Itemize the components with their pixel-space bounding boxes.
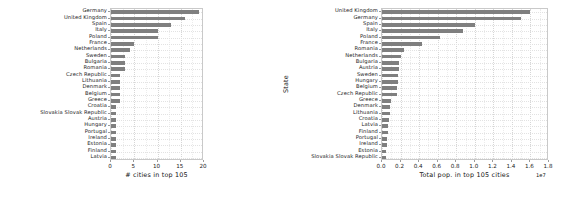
y-axis-tick-mark: [108, 125, 110, 126]
y-axis-tick-mark: [108, 94, 110, 95]
x-axis-tick-mark: [180, 160, 181, 162]
bar: [382, 124, 388, 128]
y-axis-tick-label: Greece: [359, 97, 378, 102]
bar: [111, 23, 171, 27]
bar: [382, 48, 404, 52]
bar: [382, 99, 391, 103]
x-axis-tick-label: 10: [153, 163, 160, 169]
gridline-vertical: [475, 9, 476, 159]
x-axis-tick-label: 5: [131, 163, 135, 169]
gridline-vertical: [181, 9, 182, 159]
x-axis-tick-mark: [437, 160, 438, 162]
x-axis-tick-label: 1.6: [525, 163, 534, 169]
bar: [382, 17, 521, 21]
x-axis-tick-label: 0.0: [377, 163, 386, 169]
bar: [382, 86, 397, 90]
y-axis-tick-label: Latvia: [362, 122, 378, 127]
gridline-vertical: [530, 9, 531, 159]
y-axis-tick-mark: [108, 49, 110, 50]
y-axis-tick-mark: [108, 100, 110, 101]
y-axis-tick-label: Bulgaria: [85, 59, 107, 64]
gridline-horizontal: [111, 139, 202, 140]
gridline-horizontal: [382, 133, 547, 134]
y-axis-tick-label: Czech Republic: [66, 72, 107, 77]
gridline-horizontal: [382, 114, 547, 115]
bar: [382, 10, 530, 14]
gridline-horizontal: [382, 101, 547, 102]
y-axis-tick-label: Belgium: [356, 84, 378, 89]
y-axis-tick-mark: [379, 62, 381, 63]
y-axis-tick-mark: [108, 18, 110, 19]
bar: [382, 61, 399, 65]
y-axis-tick-mark: [379, 30, 381, 31]
y-axis-tick-mark: [108, 56, 110, 57]
y-axis-tick-mark: [108, 132, 110, 133]
y-axis-tick-mark: [379, 11, 381, 12]
plot-area-right: [381, 8, 548, 160]
gridline-horizontal: [382, 82, 547, 83]
x-axis-exponent-label: 1e7: [536, 172, 546, 178]
x-axis-tick-label: 1.8: [544, 163, 553, 169]
bar: [111, 131, 116, 135]
y-axis-tick-label: Spain: [363, 21, 378, 26]
gridline-horizontal: [382, 145, 547, 146]
y-axis-tick-mark: [379, 87, 381, 88]
y-axis-tick-mark: [379, 106, 381, 107]
panel-total-population: Slovakia Slovak RepublicEstoniaIrelandPo…: [281, 0, 563, 198]
y-axis-tick-label: Italy: [366, 27, 378, 32]
gridline-horizontal: [382, 152, 547, 153]
bar: [111, 10, 199, 14]
y-axis-tick-label: Lithuania: [353, 110, 378, 115]
x-axis-tick-label: 1.4: [506, 163, 515, 169]
y-axis-tick-mark: [379, 56, 381, 57]
bar: [111, 74, 120, 78]
y-axis-tick-mark: [379, 151, 381, 152]
bar: [111, 55, 125, 59]
x-axis-tick-mark: [511, 160, 512, 162]
y-axis-tick-mark: [379, 144, 381, 145]
y-axis-tick-label: Lithuania: [82, 78, 107, 83]
bar: [382, 55, 401, 59]
gridline-vertical-minor: [466, 9, 467, 159]
y-axis-tick-label: Netherlands: [74, 46, 107, 51]
y-axis-tick-mark: [108, 106, 110, 107]
bar: [111, 86, 120, 90]
x-axis-tick-mark: [400, 160, 401, 162]
bar: [382, 150, 386, 154]
y-axis-tick-label: Portugal: [85, 129, 107, 134]
x-axis-tick-label: 0: [108, 163, 112, 169]
bar: [111, 156, 116, 160]
panel-cities-count: LatviaFinlandEstoniaIrelandPortugalHunga…: [0, 0, 282, 198]
gridline-vertical-minor: [540, 9, 541, 159]
y-axis-tick-label: Portugal: [356, 135, 378, 140]
bar: [111, 105, 116, 109]
y-axis-tick-mark: [379, 43, 381, 44]
gridline-vertical-minor: [169, 9, 170, 159]
bar: [382, 143, 387, 147]
y-axis-tick-mark: [108, 144, 110, 145]
bar: [382, 42, 422, 46]
x-axis-tick-label: 0.2: [395, 163, 404, 169]
gridline-horizontal: [382, 50, 547, 51]
gridline-horizontal: [111, 145, 202, 146]
bar: [111, 137, 116, 141]
y-axis-tick-label: Denmark: [82, 84, 107, 89]
y-axis-label-right: State: [283, 75, 290, 93]
gridline-horizontal: [111, 101, 202, 102]
y-axis-tick-label: France: [360, 40, 378, 45]
x-axis-tick-label: 20: [199, 163, 206, 169]
x-axis-tick-mark: [529, 160, 530, 162]
y-axis-tick-mark: [379, 119, 381, 120]
y-axis-tick-label: Estonia: [87, 141, 107, 146]
y-axis-tick-mark: [108, 43, 110, 44]
x-axis-label-left: # cities in top 105: [125, 172, 188, 179]
gridline-horizontal: [382, 57, 547, 58]
gridline-horizontal: [382, 88, 547, 89]
y-axis-tick-mark: [108, 81, 110, 82]
y-axis-tick-mark: [379, 113, 381, 114]
bar: [111, 29, 158, 33]
x-axis-tick-mark: [203, 160, 204, 162]
gridline-vertical-minor: [484, 9, 485, 159]
bar: [111, 124, 116, 128]
bar: [382, 29, 463, 33]
